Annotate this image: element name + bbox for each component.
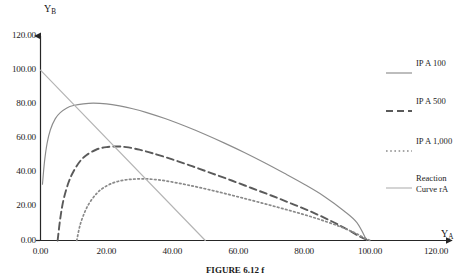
y-tick-label: 80.00 — [0, 98, 36, 108]
legend-item[interactable]: IP A 500 — [386, 96, 470, 122]
legend-item[interactable]: IP A 100 — [386, 58, 470, 84]
x-tick-label: 0.00 — [18, 246, 64, 256]
series-line-ip-a-100 — [42, 103, 366, 240]
data-series-group — [41, 70, 371, 240]
series-line-ip-a-1-000 — [77, 179, 370, 241]
x-tick-label: 120.00 — [413, 246, 459, 256]
series-line-reaction-curve-ra — [41, 70, 206, 240]
x-tick-label: 100.00 — [347, 246, 393, 256]
x-tick-label: 20.00 — [83, 246, 129, 256]
y-tick-label: 60.00 — [0, 132, 36, 142]
y-tick-label: 120.00 — [0, 30, 36, 40]
series-line-ip-a-500 — [58, 146, 369, 240]
x-tick-label: 80.00 — [281, 246, 327, 256]
y-tick-label: 20.00 — [0, 200, 36, 210]
y-axis-title: YB — [44, 3, 56, 14]
figure-container: 0.0020.0040.0060.0080.00100.00120.00 0.0… — [0, 0, 470, 276]
legend-swatch-solid — [386, 178, 412, 186]
figure-caption: FIGURE 6.12 f — [0, 265, 470, 275]
x-axis-title: YA — [441, 228, 453, 239]
legend-swatch-solid — [386, 63, 412, 71]
x-tick-label: 40.00 — [149, 246, 195, 256]
y-tick-label: 0.00 — [0, 235, 36, 245]
y-tick-label: 100.00 — [0, 64, 36, 74]
legend-label: IP A 500 — [416, 96, 446, 107]
y-tick-label: 40.00 — [0, 166, 36, 176]
legend-label: Reaction Curve rA — [416, 173, 448, 194]
legend-swatch-dotted — [386, 141, 412, 149]
legend-label: IP A 100 — [416, 58, 446, 69]
legend-item[interactable]: IP A 1,000 — [386, 136, 470, 162]
legend-item[interactable]: Reaction Curve rA — [386, 173, 470, 199]
legend-label: IP A 1,000 — [416, 136, 452, 147]
legend-swatch-dashed — [386, 101, 412, 109]
x-tick-label: 60.00 — [215, 246, 261, 256]
